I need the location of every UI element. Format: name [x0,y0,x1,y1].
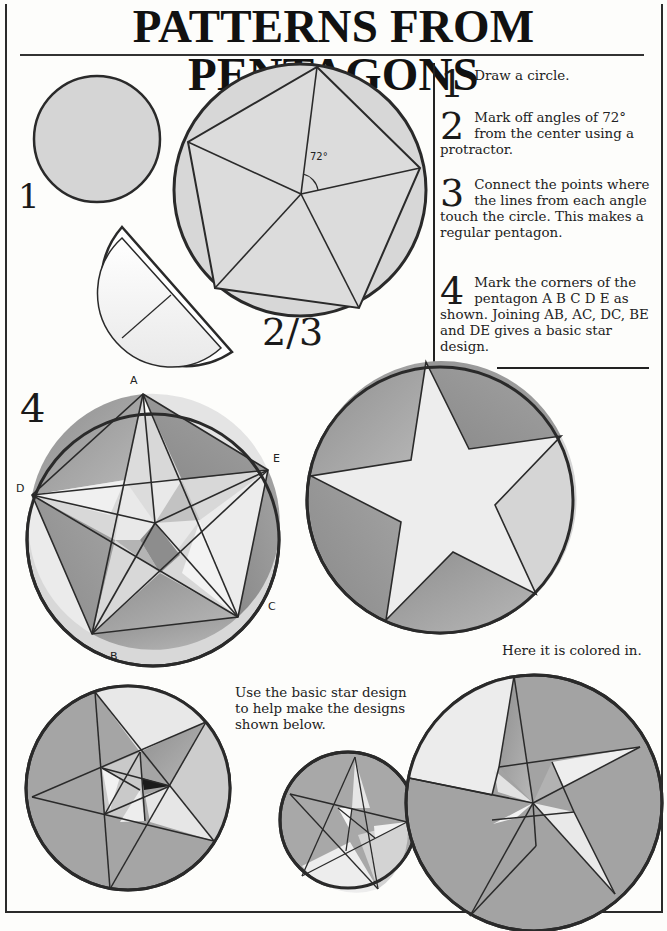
pattern-left [26,686,230,890]
vertex-label-a: A [130,374,138,387]
step1-circle [34,76,160,202]
step4-star-construction [27,394,280,666]
pentagon-artwork [0,0,667,931]
pattern-middle [280,752,416,893]
vertex-label-c: C [268,600,276,613]
pattern-right [406,675,662,931]
angle-label: 72° [310,151,328,162]
figure-label-1: 1 [18,176,40,216]
vertex-label-b: B [110,650,118,663]
caption-colored-in: Here it is colored in. [502,643,662,659]
colored-star [307,361,577,633]
caption-use-star: Use the basic star design to help make t… [235,685,420,733]
step23-pentagon-circle [174,64,426,316]
figure-label-4: 4 [20,388,45,428]
figure-label-2-3: 2/3 [262,312,323,352]
vertex-label-e: E [273,452,280,465]
vertex-label-d: D [16,482,24,495]
